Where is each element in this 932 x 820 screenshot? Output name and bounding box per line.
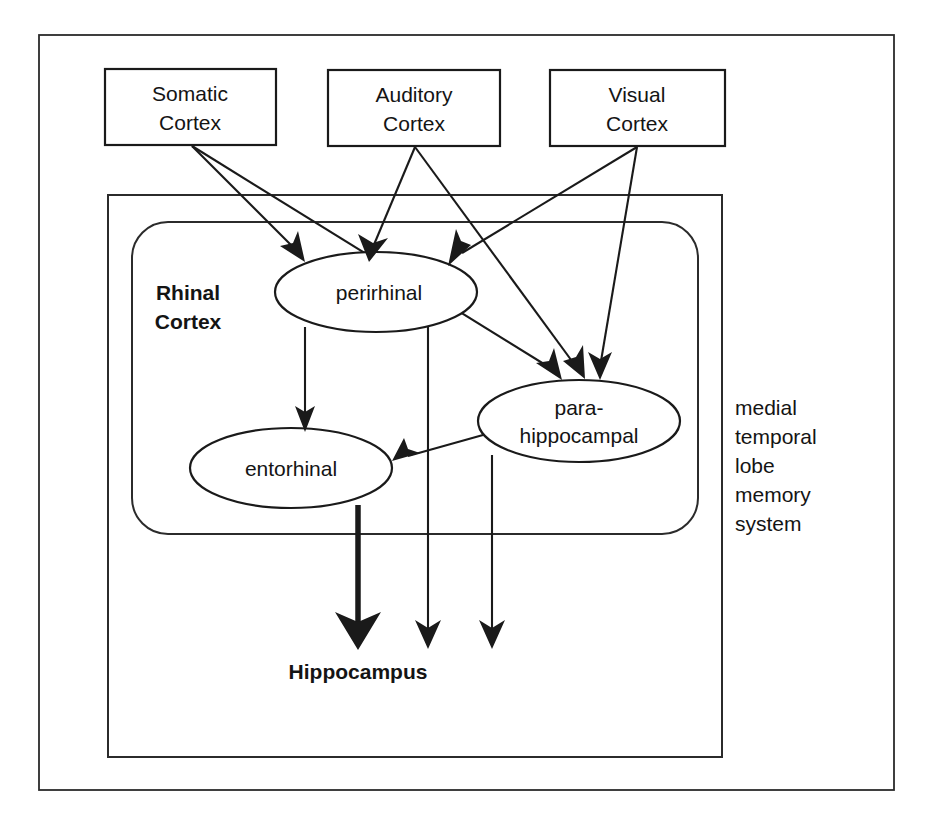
somatic-cortex-label-line1: Somatic — [152, 82, 228, 105]
mtl-side-label-line1: medial — [735, 396, 797, 419]
visual-cortex-label-line2: Cortex — [606, 112, 668, 135]
figure-canvas: Somatic Cortex Auditory Cortex Visual Co… — [0, 0, 932, 820]
mtl-side-label-line5: system — [735, 512, 802, 535]
entorhinal-label: entorhinal — [245, 457, 337, 480]
parahippocampal-ellipse[interactable] — [478, 380, 680, 462]
visual-cortex-label-line1: Visual — [609, 83, 666, 106]
mtl-side-label-line2: temporal — [735, 425, 817, 448]
auditory-cortex-label-line1: Auditory — [375, 83, 453, 106]
mtl-side-label-line4: memory — [735, 483, 811, 506]
mtl-side-label-line3: lobe — [735, 454, 775, 477]
medial-temporal-lobe-diagram: Somatic Cortex Auditory Cortex Visual Co… — [0, 0, 932, 820]
parahippocampal-label-line1: para- — [554, 396, 603, 419]
hippocampus-label: Hippocampus — [289, 660, 428, 683]
perirhinal-label: perirhinal — [336, 281, 422, 304]
somatic-cortex-label-line2: Cortex — [159, 111, 221, 134]
rhinal-cortex-label-line2: Cortex — [155, 310, 222, 333]
auditory-cortex-label-line2: Cortex — [383, 112, 445, 135]
parahippocampal-label-line2: hippocampal — [519, 424, 638, 447]
rhinal-cortex-label-line1: Rhinal — [156, 281, 220, 304]
